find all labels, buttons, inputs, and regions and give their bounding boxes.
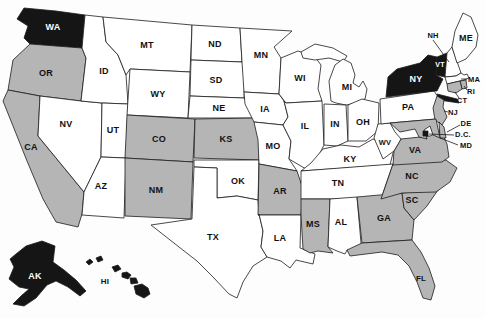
- state-sc-label: SC: [406, 195, 419, 205]
- state-id-label: ID: [99, 66, 109, 76]
- state-wa-label: WA: [46, 22, 61, 32]
- state-hi-island-2[interactable]: [96, 256, 103, 262]
- state-wv-label: WV: [379, 138, 391, 147]
- state-ia-label: IA: [260, 104, 270, 114]
- state-me-label: ME: [459, 33, 473, 43]
- state-ny-label: NY: [410, 74, 423, 84]
- state-az-label: AZ: [95, 181, 108, 191]
- state-nv-label: NV: [60, 119, 73, 129]
- state-va-label: VA: [409, 145, 422, 155]
- state-dc[interactable]: [423, 131, 428, 136]
- us-map-canvas: WA OR CA NV ID UT AZ MT WY CO NM ND SD N…: [0, 0, 485, 318]
- state-ne-label: NE: [213, 103, 226, 113]
- state-mi-label: MI: [342, 82, 352, 92]
- state-ct-label: CT: [457, 96, 468, 105]
- us-states-map: WA OR CA NV ID UT AZ MT WY CO NM ND SD N…: [0, 0, 485, 318]
- state-mt-label: MT: [140, 40, 154, 50]
- state-tx-label: TX: [207, 232, 219, 242]
- state-ok-label: OK: [231, 176, 245, 186]
- state-ut-label: UT: [107, 125, 120, 135]
- state-nj-label: NJ: [448, 108, 458, 117]
- state-la-label: LA: [274, 233, 287, 243]
- state-ky-label: KY: [344, 154, 357, 164]
- state-ms-label: MS: [306, 219, 320, 229]
- state-co-label: CO: [152, 134, 166, 144]
- state-fl-label: FL: [416, 274, 426, 283]
- state-fl[interactable]: [347, 240, 435, 300]
- state-ca-label: CA: [24, 142, 38, 152]
- state-ga-label: GA: [377, 213, 391, 223]
- state-ak-label: AK: [28, 271, 42, 281]
- state-ri-label: RI: [467, 87, 475, 96]
- state-ma-label: MA: [468, 75, 480, 84]
- state-oh-label: OH: [356, 117, 370, 127]
- state-hi-island-5[interactable]: [130, 278, 138, 284]
- state-hi-island-6[interactable]: [134, 284, 150, 298]
- state-nd-label: ND: [208, 39, 222, 49]
- state-md-label: MD: [460, 141, 472, 150]
- state-dc-label: D.C.: [455, 130, 471, 139]
- state-sd-label: SD: [210, 75, 223, 85]
- state-nm-label: NM: [149, 185, 163, 195]
- state-il-label: IL: [301, 121, 310, 131]
- state-pa-label: PA: [402, 102, 415, 112]
- state-ar-label: AR: [273, 186, 287, 196]
- state-ak[interactable]: [9, 241, 86, 306]
- state-mo-label: MO: [266, 141, 281, 151]
- state-ks-label: KS: [220, 134, 233, 144]
- state-tn-label: TN: [332, 178, 344, 188]
- state-hi-label: HI: [101, 277, 109, 286]
- state-wy-label: WY: [151, 89, 166, 99]
- state-nh-label: NH: [427, 31, 438, 40]
- state-hi-island-3[interactable]: [112, 265, 121, 272]
- state-wi-label: WI: [294, 73, 305, 83]
- state-in-label: IN: [330, 119, 339, 129]
- state-al-label: AL: [335, 217, 348, 227]
- state-hi-island-1[interactable]: [86, 259, 93, 265]
- state-mn-label: MN: [254, 50, 268, 60]
- state-vt-label: VT: [435, 61, 445, 68]
- state-or-label: OR: [39, 68, 53, 78]
- state-nc-label: NC: [405, 171, 419, 181]
- state-de-label: DE: [461, 119, 472, 128]
